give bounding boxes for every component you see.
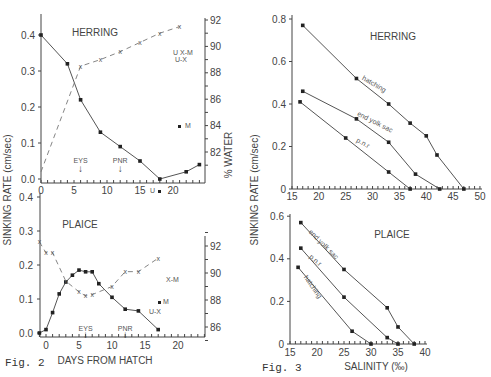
data-point — [299, 221, 303, 225]
pnr-label: p.n.r — [355, 136, 372, 150]
pnr-arrow: ↓ — [118, 163, 123, 174]
water-point: x — [79, 63, 83, 70]
x-tick-label: 15 — [284, 347, 296, 358]
water-point: x — [118, 48, 122, 55]
data-point — [138, 159, 142, 163]
data-point — [424, 134, 428, 138]
x-tick-label: 30 — [367, 191, 379, 202]
plaice-title: PLAICE — [374, 229, 410, 240]
y-right-tick-label: 88 — [210, 295, 222, 306]
hatching-label: hatching — [302, 274, 324, 300]
herring-u-label: U — [150, 187, 155, 194]
data-point — [71, 273, 75, 277]
data-point — [84, 270, 88, 274]
x-tick-label: 5 — [76, 340, 82, 351]
data-point — [342, 268, 346, 272]
data-point — [408, 187, 412, 191]
plaice-water-line — [39, 242, 158, 296]
x-tick-label: 0 — [38, 185, 44, 196]
data-point — [301, 24, 305, 28]
water-point: x — [77, 288, 81, 295]
data-point — [90, 270, 94, 274]
data-point — [396, 325, 400, 329]
data-point — [385, 336, 389, 340]
y-right-tick-label: 84 — [210, 120, 222, 131]
fig3-ylabel: SINKING RATE (cm/sec) — [249, 135, 260, 246]
data-point — [299, 246, 303, 250]
data-point — [99, 130, 103, 134]
fig3-xlabel: SALINITY (‰) — [344, 361, 408, 372]
y-tick-label: 0.0 — [21, 174, 35, 185]
herring-m-label: M — [185, 122, 191, 129]
data-point — [301, 89, 305, 93]
water-point: x — [137, 268, 141, 275]
x-tick-label: 30 — [365, 347, 377, 358]
water-point: x — [178, 23, 182, 30]
data-point — [39, 33, 43, 37]
water-point: x — [84, 292, 88, 299]
data-point — [158, 190, 161, 193]
water-point: x — [158, 30, 162, 37]
plaice-title: PLAICE — [62, 219, 98, 230]
data-point — [38, 331, 42, 335]
data-point — [396, 342, 400, 346]
data-point — [435, 153, 439, 157]
data-point — [385, 306, 389, 310]
x-tick-label: 35 — [394, 191, 406, 202]
y-right-tick-label: 86 — [210, 322, 222, 333]
x-tick-label: 15 — [134, 185, 146, 196]
data-point — [298, 100, 302, 104]
water-point: x — [38, 238, 42, 245]
data-point — [97, 282, 101, 286]
x-tick-label: 20 — [167, 185, 179, 196]
herring-title: HERRING — [370, 31, 416, 42]
herring-water-line — [41, 27, 180, 172]
figure-canvas: 051015200.00.10.20.30.4828486889092xxxxx… — [0, 0, 491, 377]
data-point — [178, 125, 181, 128]
y-tick-label: 0.2 — [270, 296, 284, 307]
x-tick-label: 25 — [340, 191, 352, 202]
y-tick-label: 0.1 — [19, 294, 33, 305]
x-tick-label: 15 — [139, 340, 151, 351]
data-point — [438, 187, 442, 191]
water-point: x — [44, 249, 48, 256]
y-right-tick-label: 92 — [210, 15, 222, 26]
y-tick-label: 0.6 — [272, 56, 286, 67]
water-point: x — [110, 283, 114, 290]
water-point: x — [156, 255, 160, 262]
eys-arrow: ↓ — [78, 163, 83, 174]
water-point: x — [99, 56, 103, 63]
data-point — [77, 268, 81, 272]
data-point — [123, 307, 127, 311]
y-tick-label: 0.1 — [21, 138, 35, 149]
data-point — [462, 187, 466, 191]
fig2-ylabel-right: % WATER — [223, 132, 234, 179]
water-point: x — [90, 291, 94, 298]
data-point — [355, 77, 359, 81]
plaice-m-label: M — [163, 298, 169, 305]
data-point — [158, 177, 162, 181]
y-right-tick-label: 82 — [210, 147, 222, 158]
fig2-xlabel: DAYS FROM HATCH — [57, 355, 152, 366]
herring-ux-label: U-X — [175, 56, 187, 63]
fig2-ylabel: SINKING RATE (cm/sec) — [2, 135, 13, 246]
y-tick-label: 0.3 — [21, 66, 35, 77]
herring-p-n-r-line — [300, 102, 410, 189]
x-tick-label: 45 — [448, 191, 460, 202]
fig3-label: Fig. 3 — [262, 362, 302, 374]
pnr-label: p.n.r — [307, 253, 323, 269]
water-point: x — [51, 249, 55, 256]
x-tick-label: 5 — [71, 185, 77, 196]
data-point — [57, 292, 61, 296]
x-tick-label: 40 — [421, 191, 433, 202]
y-right-tick-label: 86 — [210, 94, 222, 105]
x-tick-label: 50 — [474, 191, 486, 202]
data-point — [387, 140, 391, 144]
y-right-tick-label: 90 — [210, 41, 222, 52]
hatching-label: hatching — [361, 74, 388, 94]
data-point — [412, 342, 416, 346]
y-tick-label: 0.2 — [19, 260, 33, 271]
data-point — [118, 145, 122, 149]
herring-end-yolk-sac-line — [303, 91, 440, 189]
data-point — [184, 170, 188, 174]
